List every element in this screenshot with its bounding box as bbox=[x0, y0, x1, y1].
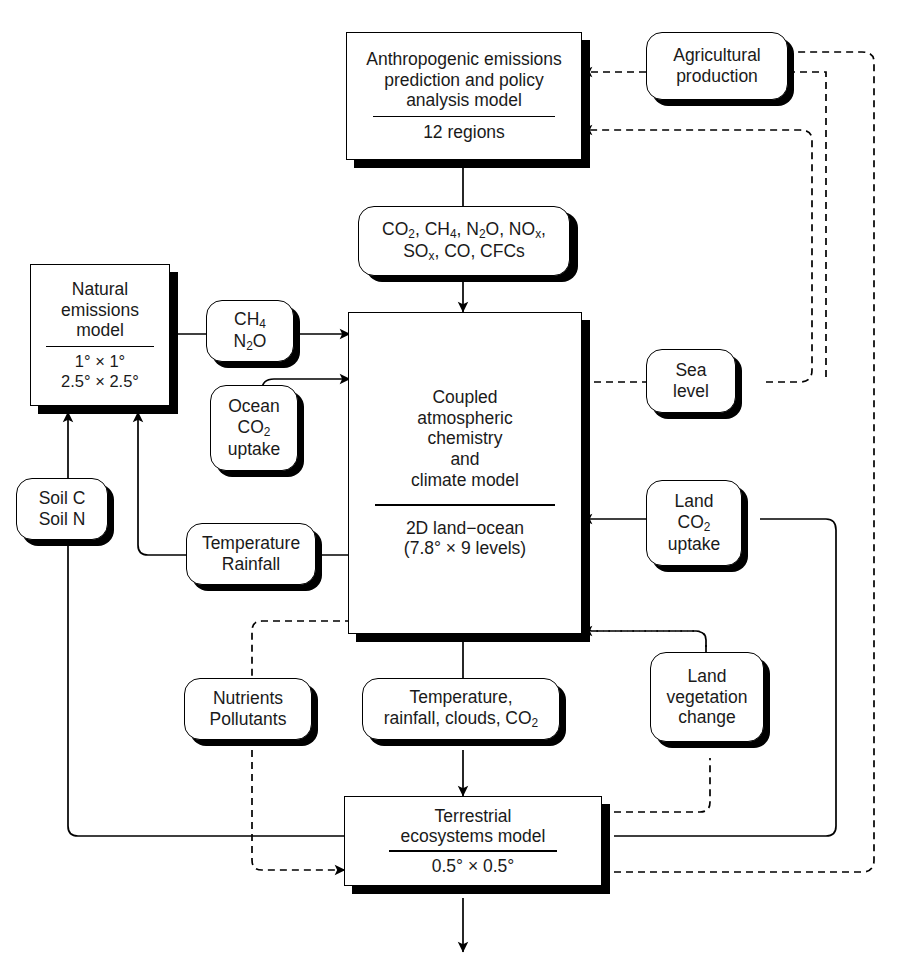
ch4-label: CH4 bbox=[234, 309, 266, 331]
soil-line2: Soil N bbox=[39, 509, 86, 530]
node-soil-c-soil-n[interactable]: Soil C Soil N bbox=[16, 478, 108, 540]
edge-landveg-to-climate-seg bbox=[584, 620, 706, 652]
outputs-line2: rainfall, clouds, CO2 bbox=[384, 708, 538, 730]
node-emissions-species[interactable]: CO2, CH4, N2O, NOx, SOx, CO, CFCs bbox=[358, 206, 570, 276]
climate-resolution-1: 2D land−ocean bbox=[406, 518, 524, 539]
soil-line1: Soil C bbox=[39, 488, 86, 509]
node-agricultural-production[interactable]: Agricultural production bbox=[646, 32, 788, 100]
ocean-line2: CO2 bbox=[238, 417, 271, 439]
landveg-line2: vegetation bbox=[667, 687, 748, 708]
edge-terrestrial-to-agricultural bbox=[614, 52, 874, 872]
terrestrial-line2: ecosystems model bbox=[401, 826, 546, 847]
node-anthropogenic-emissions-model[interactable]: Anthropogenic emissions prediction and p… bbox=[346, 32, 582, 160]
sealevel-line1: Sea bbox=[675, 360, 706, 381]
species-line1: CO2, CH4, N2O, NOx, bbox=[382, 219, 546, 241]
edge-sealevel-to-anthropogenic bbox=[582, 130, 812, 382]
nutrients-line2: Pollutants bbox=[210, 709, 287, 730]
nutrients-line1: Nutrients bbox=[213, 688, 283, 709]
climate-line4: and bbox=[450, 449, 479, 470]
edge-nutrients-to-terrestrial bbox=[252, 750, 345, 870]
outputs-line1: Temperature, bbox=[409, 687, 512, 708]
climate-line2: atmospheric bbox=[417, 408, 512, 429]
node-coupled-climate-model[interactable]: Coupled atmospheric chemistry and climat… bbox=[348, 312, 582, 634]
edge-landveg-to-climate bbox=[582, 631, 706, 647]
node-climate-outputs[interactable]: Temperature, rainfall, clouds, CO2 bbox=[362, 678, 560, 740]
node-ch4-n2o[interactable]: CH4 N2O bbox=[206, 300, 294, 362]
edge-temprain-to-natural bbox=[138, 412, 186, 555]
divider bbox=[375, 504, 556, 505]
node-land-vegetation-change[interactable]: Land vegetation change bbox=[650, 652, 764, 742]
climate-line1: Coupled bbox=[432, 387, 497, 408]
anthropogenic-subtitle: 12 regions bbox=[423, 122, 505, 143]
node-land-co2-uptake[interactable]: Land CO2 uptake bbox=[646, 480, 742, 566]
natural-resolution-2: 2.5° × 2.5° bbox=[61, 372, 139, 391]
landveg-line1: Land bbox=[688, 666, 727, 687]
ocean-line3: uptake bbox=[228, 439, 281, 460]
agricultural-line1: Agricultural bbox=[673, 45, 761, 66]
temprain-line1: Temperature bbox=[202, 533, 300, 554]
anthropogenic-line3: analysis model bbox=[406, 90, 522, 111]
divider bbox=[373, 116, 556, 117]
sealevel-line2: level bbox=[673, 381, 709, 402]
terrestrial-resolution: 0.5° × 0.5° bbox=[432, 856, 515, 877]
divider bbox=[46, 346, 154, 347]
node-nutrients-pollutants[interactable]: Nutrients Pollutants bbox=[184, 678, 312, 740]
species-line2: SOx, CO, CFCs bbox=[403, 241, 525, 263]
landco2-line3: uptake bbox=[668, 534, 721, 555]
edge-agricultural-right-branch bbox=[788, 72, 826, 382]
ocean-line1: Ocean bbox=[228, 396, 280, 417]
node-temperature-rainfall[interactable]: Temperature Rainfall bbox=[186, 523, 316, 585]
natural-line2: emissions bbox=[61, 300, 139, 321]
landco2-line2: CO2 bbox=[678, 512, 711, 534]
divider bbox=[389, 850, 558, 851]
terrestrial-line1: Terrestrial bbox=[435, 806, 512, 827]
agricultural-line2: production bbox=[676, 66, 758, 87]
climate-line5: climate model bbox=[411, 470, 519, 491]
node-ocean-co2-uptake[interactable]: Ocean CO2 uptake bbox=[210, 385, 298, 471]
climate-line3: chemistry bbox=[428, 428, 503, 449]
climate-resolution-2: (7.8° × 9 levels) bbox=[404, 538, 526, 559]
natural-line3: model bbox=[76, 320, 124, 341]
anthropogenic-line1: Anthropogenic emissions bbox=[366, 49, 562, 70]
node-sea-level[interactable]: Sea level bbox=[646, 349, 736, 413]
anthropogenic-line2: prediction and policy bbox=[384, 70, 544, 91]
temprain-line2: Rainfall bbox=[222, 554, 280, 575]
diagram-canvas: Anthropogenic emissions prediction and p… bbox=[0, 0, 900, 976]
landveg-line3: change bbox=[678, 707, 735, 728]
n2o-label: N2O bbox=[234, 331, 267, 353]
edge-terrestrial-to-landveg bbox=[614, 758, 710, 812]
edge-climate-to-nutrients bbox=[252, 621, 352, 678]
natural-line1: Natural bbox=[72, 279, 128, 300]
landco2-line1: Land bbox=[675, 491, 714, 512]
node-terrestrial-ecosystems-model[interactable]: Terrestrial ecosystems model 0.5° × 0.5° bbox=[344, 796, 602, 886]
node-natural-emissions-model[interactable]: Natural emissions model 1° × 1° 2.5° × 2… bbox=[30, 264, 170, 406]
natural-resolution-1: 1° × 1° bbox=[75, 352, 125, 371]
